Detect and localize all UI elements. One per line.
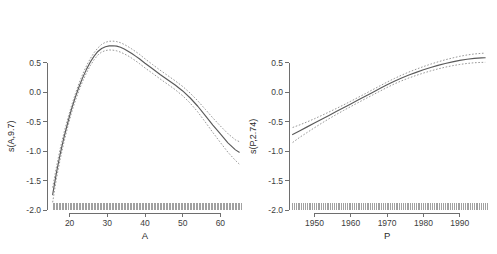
rug-plot <box>293 203 487 210</box>
upper-confidence-curve <box>293 53 486 127</box>
lower-confidence-curve <box>53 50 240 202</box>
x-tick-label: 40 <box>140 218 150 228</box>
x-tick-label: 50 <box>178 218 188 228</box>
y-axis-title: s(P,2.74) <box>248 119 258 154</box>
y-tick-label: -0.5 <box>26 117 41 127</box>
y-tick-label: -0.5 <box>268 117 283 127</box>
x-tick-label: 1970 <box>378 218 397 228</box>
lower-confidence-curve <box>293 62 486 142</box>
x-axis-title: A <box>142 230 149 241</box>
rug-plot <box>53 203 242 210</box>
x-tick-label: 1960 <box>341 218 360 228</box>
y-tick-label: -1.0 <box>26 146 41 156</box>
y-tick-label: -1.0 <box>268 146 283 156</box>
x-tick-label: 1990 <box>450 218 469 228</box>
x-tick-label: 1950 <box>305 218 324 228</box>
x-axis-title: P <box>384 230 390 241</box>
upper-confidence-curve <box>53 41 240 187</box>
y-tick-label: -2.0 <box>26 205 41 215</box>
y-tick-label: 0.0 <box>271 87 283 97</box>
gam-smooth-figure: 0.50.0-0.5-1.0-1.5-2.02030405060As(A,9.7… <box>0 0 497 254</box>
panel-right-period: 0.50.0-0.5-1.0-1.5-2.0195019601970198019… <box>247 0 497 254</box>
x-tick-label: 30 <box>103 218 113 228</box>
y-tick-label: -2.0 <box>268 205 283 215</box>
x-tick-label: 20 <box>65 218 75 228</box>
y-tick-label: 0.5 <box>29 58 41 68</box>
left-plot-canvas: 0.50.0-0.5-1.0-1.5-2.02030405060As(A,9.7… <box>0 0 250 254</box>
y-tick-label: 0.0 <box>29 87 41 97</box>
panel-left-age: 0.50.0-0.5-1.0-1.5-2.02030405060As(A,9.7… <box>0 0 250 254</box>
y-tick-label: -1.5 <box>268 176 283 186</box>
y-tick-label: -1.5 <box>26 176 41 186</box>
x-tick-label: 60 <box>216 218 226 228</box>
fit-curve <box>293 58 486 135</box>
right-plot-canvas: 0.50.0-0.5-1.0-1.5-2.0195019601970198019… <box>247 0 497 254</box>
y-tick-label: 0.5 <box>271 58 283 68</box>
y-axis-title: s(A,9.7) <box>6 121 16 153</box>
x-tick-label: 1980 <box>414 218 433 228</box>
fit-curve <box>53 46 240 195</box>
